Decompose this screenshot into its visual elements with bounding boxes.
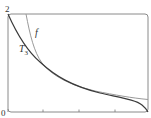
curve-f xyxy=(26,14,148,100)
plot-area xyxy=(0,0,151,118)
curve-t3-label: T3 xyxy=(19,44,28,57)
y-axis-min-label: 0 xyxy=(1,109,6,118)
curve-f-label: f xyxy=(35,28,38,38)
curve-t3-label-sub: 3 xyxy=(25,49,29,57)
y-axis-max-label: 2 xyxy=(5,5,10,14)
